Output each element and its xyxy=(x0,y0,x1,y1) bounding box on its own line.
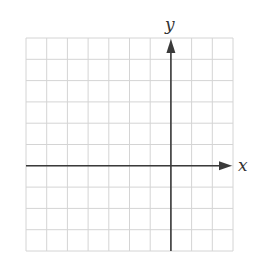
x-axis-label: x xyxy=(238,155,248,175)
y-axis-label: y xyxy=(164,14,175,34)
grid-lines xyxy=(26,38,233,251)
coordinate-plane: x y xyxy=(0,0,255,263)
x-axis-arrow-icon xyxy=(219,161,232,170)
y-axis-arrow-icon xyxy=(166,39,175,53)
